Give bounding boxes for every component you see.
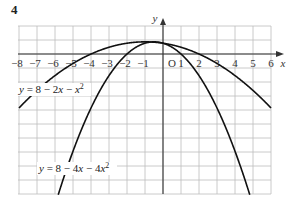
graph: −8−7−6−5−4−3−2−1123456Oxy y = 8 − 2x − x… [0,0,291,206]
curve2-equation-label: y = 8 − 4x − 4x2 [38,161,109,174]
x-tick-label: −1 [137,57,149,69]
y-axis-label: y [152,12,158,24]
x-tick-label: −4 [83,57,95,69]
x-tick-label: 4 [232,57,238,69]
x-tick-label: 2 [196,57,202,69]
x-tick-label: −3 [101,57,113,69]
x-tick-label: −8 [11,57,23,69]
origin-label: O [168,57,176,69]
x-tick-label: −2 [119,57,131,69]
y-axis-arrow-icon [160,18,166,25]
x-tick-label: 6 [268,57,274,69]
curve1-equation-label: y = 8 − 2x − x2 [18,82,84,95]
x-axis-label: x [280,57,286,69]
x-tick-label: −6 [47,57,59,69]
x-tick-label: 5 [250,57,256,69]
x-tick-label: 1 [178,57,184,69]
x-tick-label: −7 [29,57,41,69]
